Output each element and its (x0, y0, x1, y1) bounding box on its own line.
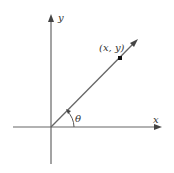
angle-label: θ (75, 113, 81, 124)
angle-diagram: y x (x, y) θ (0, 0, 174, 173)
angle-arc (66, 109, 74, 127)
terminal-ray (51, 39, 138, 127)
y-axis-arrow-icon (48, 14, 54, 22)
y-axis (48, 14, 54, 164)
x-axis (13, 124, 162, 130)
x-axis-label: x (153, 114, 159, 125)
y-axis-label: y (57, 12, 64, 23)
point-marker (118, 56, 122, 60)
point-label: (x, y) (99, 42, 125, 53)
